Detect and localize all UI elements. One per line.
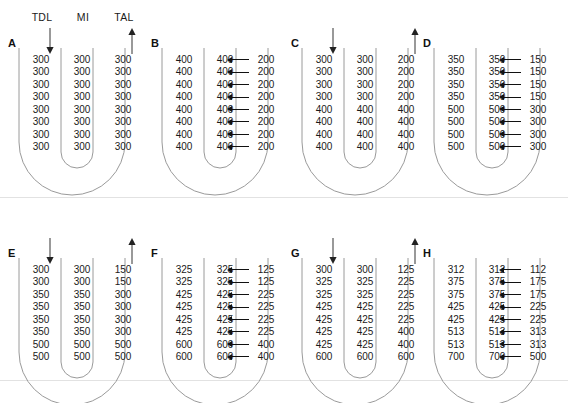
value-cell-mi: 300	[346, 79, 384, 91]
value-row: 325325125	[165, 276, 287, 288]
value-cell-tal: 400	[387, 104, 425, 116]
value-cell-tdl: 400	[305, 141, 343, 153]
value-cell-tal: 225	[519, 301, 557, 313]
value-cell-tdl: 300	[22, 66, 60, 78]
arrow-shaft	[502, 307, 521, 308]
value-cell-tdl: 400	[305, 104, 343, 116]
value-cell-tal: 200	[387, 79, 425, 91]
value-cell-tal: 125	[247, 276, 285, 288]
solute-transport-arrow	[227, 84, 249, 86]
solute-transport-arrow	[227, 356, 249, 358]
value-cell-mi: 400	[346, 116, 384, 128]
value-row: 500500500	[22, 339, 144, 351]
value-cell-tal: 125	[247, 264, 285, 276]
arrow-shaft	[230, 331, 249, 332]
arrow-shaft	[230, 282, 249, 283]
value-row: 425425225	[305, 301, 427, 313]
value-row: 425425225	[165, 289, 287, 301]
value-row: 350350150	[437, 54, 559, 66]
value-cell-tdl: 400	[165, 54, 203, 66]
arrow-head-icon	[227, 57, 232, 63]
solute-transport-arrow	[227, 146, 249, 148]
arrow-head-icon	[499, 82, 504, 88]
solute-transport-arrow	[499, 356, 521, 358]
value-cell-tdl: 600	[165, 339, 203, 351]
value-cell-tal: 300	[104, 326, 142, 338]
value-cell-mi: 425	[346, 326, 384, 338]
value-cell-mi: 350	[63, 314, 101, 326]
solute-transport-arrow	[499, 331, 521, 333]
panel-b: B400400200400400200400400200400400200400…	[151, 8, 287, 193]
arrow-head-icon	[499, 119, 504, 125]
panel-f: F325325125325325125425425225425425225425…	[151, 218, 287, 403]
value-cell-tal: 300	[519, 141, 557, 153]
value-cell-tdl: 425	[305, 314, 343, 326]
value-row: 350350300	[22, 301, 144, 313]
solute-transport-arrow	[499, 72, 521, 74]
value-cell-tdl: 400	[165, 79, 203, 91]
arrow-shaft	[502, 269, 521, 270]
value-row: 300300300	[22, 104, 144, 116]
value-cell-tal: 313	[519, 339, 557, 351]
value-cell-tal: 600	[387, 351, 425, 363]
solute-transport-arrow	[499, 307, 521, 309]
arrow-shaft	[502, 356, 521, 357]
osmolarity-value-grid: 3003001253253252253253252254254252254254…	[305, 264, 427, 364]
value-cell-tdl: 325	[305, 276, 343, 288]
value-cell-tdl: 400	[165, 129, 203, 141]
value-cell-mi: 500	[63, 339, 101, 351]
value-row: 400400400	[305, 141, 427, 153]
value-cell-tdl: 300	[305, 79, 343, 91]
value-row: 350350300	[22, 314, 144, 326]
value-cell-tal: 300	[104, 116, 142, 128]
value-cell-tdl: 425	[305, 326, 343, 338]
value-row: 600600400	[165, 339, 287, 351]
value-cell-tal: 300	[104, 301, 142, 313]
value-cell-tal: 200	[247, 54, 285, 66]
arrow-shaft	[230, 121, 249, 122]
value-cell-tdl: 425	[165, 326, 203, 338]
value-cell-tal: 400	[387, 339, 425, 351]
arrow-shaft	[502, 146, 521, 147]
value-row: 350350150	[437, 66, 559, 78]
value-row: 400400400	[305, 116, 427, 128]
solute-transport-arrow	[227, 121, 249, 123]
value-cell-tal: 400	[247, 339, 285, 351]
value-cell-tdl: 425	[165, 314, 203, 326]
value-cell-tdl: 300	[305, 54, 343, 66]
value-row: 300300200	[305, 66, 427, 78]
solute-transport-arrow	[227, 331, 249, 333]
value-cell-tal: 112	[519, 264, 557, 276]
value-cell-tdl: 325	[165, 264, 203, 276]
value-cell-tal: 400	[387, 141, 425, 153]
arrow-shaft	[502, 344, 521, 345]
value-cell-tal: 225	[247, 289, 285, 301]
osmolarity-value-grid: 3503501503503501503503501503503501505005…	[437, 54, 559, 154]
value-cell-tal: 300	[104, 79, 142, 91]
value-row: 700700500	[437, 351, 559, 363]
value-cell-mi: 300	[63, 104, 101, 116]
value-row: 300300200	[305, 79, 427, 91]
value-row: 500500300	[437, 129, 559, 141]
value-cell-tal: 175	[519, 276, 557, 288]
value-cell-mi: 300	[346, 66, 384, 78]
value-row: 400400200	[165, 54, 287, 66]
value-cell-tal: 300	[104, 129, 142, 141]
solute-transport-arrow	[499, 84, 521, 86]
osmolarity-value-grid: 3003002003003002003003002003003002004004…	[305, 54, 427, 154]
value-cell-tal: 225	[387, 314, 425, 326]
value-row: 325325225	[305, 276, 427, 288]
value-cell-tal: 500	[519, 351, 557, 363]
value-cell-tal: 225	[247, 301, 285, 313]
value-cell-tdl: 425	[165, 289, 203, 301]
arrow-head-icon	[227, 119, 232, 125]
arrow-shaft	[502, 97, 521, 98]
value-cell-tal: 225	[387, 276, 425, 288]
value-cell-mi: 300	[63, 91, 101, 103]
arrow-head-icon	[499, 354, 504, 360]
solute-transport-arrow	[227, 269, 249, 271]
value-cell-tdl: 425	[165, 301, 203, 313]
value-cell-tdl: 500	[437, 116, 475, 128]
value-cell-tdl: 425	[437, 314, 475, 326]
solute-transport-arrow	[499, 109, 521, 111]
